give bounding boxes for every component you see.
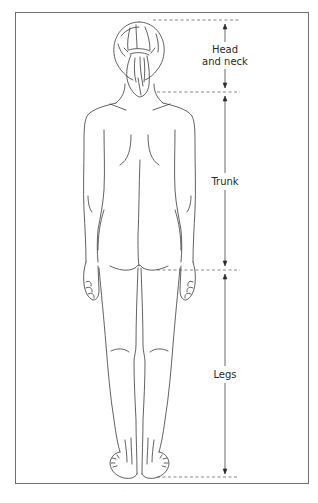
right-leg-outline (159, 268, 180, 452)
arrow-down-icon (223, 83, 227, 88)
label-head-and-neck: Head and neck (200, 43, 250, 69)
label-head-line2: and neck (202, 56, 248, 68)
right-foot-icon (142, 452, 169, 478)
segment-guides (153, 20, 240, 477)
head-icon (114, 22, 164, 80)
label-head-line1: Head (202, 44, 248, 56)
arrow-up-icon (223, 24, 227, 29)
label-legs: Legs (211, 368, 238, 382)
left-foot-icon (110, 452, 137, 478)
left-hand-icon (84, 262, 99, 300)
body-segments-illustration (0, 0, 318, 503)
torso-outline-left (84, 103, 116, 262)
right-hand-icon (180, 262, 195, 300)
label-trunk: Trunk (209, 175, 240, 189)
human-figure (84, 22, 196, 478)
torso-outline-right (163, 103, 195, 262)
arrow-up-icon (223, 274, 227, 279)
arrow-down-icon (223, 261, 227, 266)
measurement-arrows (223, 24, 227, 474)
ponytail-icon (127, 55, 150, 97)
arrow-down-icon (223, 469, 227, 474)
left-leg-outline (99, 268, 120, 452)
scan-artifact: · (124, 488, 128, 494)
arrow-up-icon (223, 96, 227, 101)
